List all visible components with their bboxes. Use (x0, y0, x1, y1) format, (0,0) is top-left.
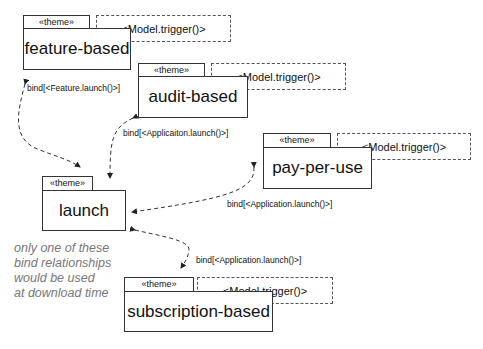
note-line: would be used (14, 271, 111, 286)
trigger-label: <Model.trigger()> (236, 71, 320, 83)
bind-arrow-subscription (135, 230, 189, 268)
theme-box-subscription-based[interactable]: subscription-based (124, 291, 273, 332)
theme-box-launch[interactable]: launch (42, 190, 126, 231)
bind-label-pay-per-use: bind[<Application.launch()>] (227, 199, 332, 209)
note-text: only one of these bind relationships wou… (14, 241, 111, 301)
stereotype-tab-pay-per-use: «theme» (263, 133, 331, 148)
note-line: only one of these (14, 241, 111, 256)
theme-box-feature-based[interactable]: feature-based (23, 28, 131, 70)
trigger-label: <Model.trigger()> (362, 141, 446, 153)
theme-name: feature-based (25, 39, 130, 59)
theme-box-pay-per-use[interactable]: pay-per-use (263, 147, 372, 189)
theme-name: subscription-based (127, 302, 270, 322)
note-line: at download time (14, 286, 111, 301)
theme-name: pay-per-use (272, 158, 363, 178)
note-line: bind relationships (14, 256, 111, 271)
stereotype-tab-feature: «theme» (23, 15, 90, 29)
theme-name: audit-based (149, 87, 238, 107)
bind-arrow-feature (18, 84, 80, 167)
stereotype-tab-launch: «theme» (42, 176, 93, 191)
stereotype-tab-audit: «theme» (138, 63, 205, 77)
trigger-label: <Model.trigger()> (121, 23, 205, 35)
theme-box-audit-based[interactable]: audit-based (138, 76, 248, 118)
bind-label-subscription: bind[<Application.launch()>] (196, 255, 301, 265)
bind-label-audit: bind[<Applicaiton.launch()>] (123, 128, 228, 138)
bind-label-feature: bind[<Feature.launch()>] (27, 83, 120, 93)
stereotype-tab-subscription: «theme» (124, 277, 194, 292)
bind-arrow-audit (110, 118, 133, 178)
theme-name: launch (59, 201, 109, 221)
